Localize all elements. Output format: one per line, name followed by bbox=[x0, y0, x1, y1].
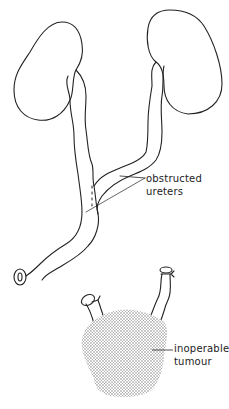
left-kidney bbox=[14, 22, 83, 120]
label-ureters: ureters bbox=[146, 186, 183, 198]
tumour-mass bbox=[82, 309, 168, 397]
left-ureter-wall-outer bbox=[26, 76, 82, 276]
right-ureter-wall-outer bbox=[94, 62, 156, 186]
pointer-line-obstructed-1 bbox=[120, 176, 145, 178]
ligature-right bbox=[161, 271, 174, 277]
label-tumour: tumour bbox=[174, 356, 212, 368]
label-inoperable: inoperable bbox=[174, 343, 229, 355]
ureterostomy-stoma bbox=[14, 269, 26, 285]
ligated-ureter-stump-right-cap bbox=[160, 267, 172, 273]
ureterostomy-stoma-lumen bbox=[18, 273, 22, 281]
diagram-canvas: obstructed ureters inoperable tumour bbox=[0, 0, 229, 409]
ligated-ureter-stump-right bbox=[148, 274, 171, 322]
ligated-ureter-stump-left-cap bbox=[79, 292, 96, 308]
right-kidney bbox=[147, 10, 222, 114]
label-obstructed: obstructed bbox=[146, 173, 202, 185]
